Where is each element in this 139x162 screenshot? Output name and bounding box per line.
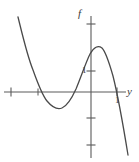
graph-figure: f y 1 1: [0, 0, 139, 162]
horizontal-axis-label: y: [127, 86, 132, 97]
x-axis-tick-label-one: 1: [115, 96, 120, 105]
cubic-curve: [18, 17, 128, 155]
vertical-axis-label: f: [78, 8, 81, 19]
y-axis-tick-label-one: 1: [82, 66, 87, 75]
plot-canvas: [0, 0, 139, 162]
